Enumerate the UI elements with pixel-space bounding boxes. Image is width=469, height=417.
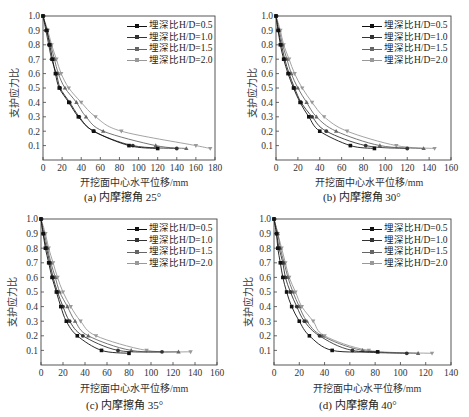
chart-panel-b: 0204060801001201401600.10.20.30.40.50.60… [235, 0, 469, 208]
svg-text:0: 0 [39, 368, 44, 378]
legend-marker-circle-icon [362, 236, 382, 244]
x-axis-label: 开挖面中心水平位移/mm [80, 380, 188, 395]
legend-item: 埋深比H/D=1.0 [362, 235, 448, 247]
svg-text:20: 20 [293, 163, 303, 173]
legend-marker-down-triangle-icon [127, 259, 147, 267]
y-axis-label: 支护应力比 [240, 277, 255, 327]
legend-marker-triangle-icon [362, 45, 382, 53]
svg-text:60: 60 [102, 368, 112, 378]
svg-text:0.3: 0.3 [261, 112, 273, 122]
legend-item: 埋深比H/D=2.0 [127, 55, 213, 67]
legend-item: 埋深比H/D=1.0 [127, 235, 213, 247]
legend: 埋深比H/D=0.5 埋深比H/D=1.0 埋深比H/D=1.5 埋深比H/D=… [127, 20, 213, 66]
svg-text:0.9: 0.9 [259, 229, 271, 239]
svg-text:80: 80 [115, 163, 125, 173]
legend-marker-circle-icon [127, 236, 147, 244]
svg-text:0.7: 0.7 [26, 258, 38, 268]
svg-text:0.1: 0.1 [259, 346, 271, 356]
svg-text:0: 0 [41, 163, 46, 173]
legend-marker-triangle-icon [127, 45, 147, 53]
svg-text:0.5: 0.5 [26, 287, 38, 297]
svg-text:0.1: 0.1 [261, 141, 273, 151]
svg-text:100: 100 [378, 163, 393, 173]
svg-text:0.6: 0.6 [26, 273, 38, 283]
panel-caption: (d) 内摩擦角 40° [319, 396, 397, 412]
legend-item: 埋深比H/D=0.5 [362, 20, 448, 32]
legend-item: 埋深比H/D=2.0 [362, 55, 448, 67]
legend: 埋深比H/D=0.5 埋深比H/D=1.0 埋深比H/D=1.5 埋深比H/D=… [362, 20, 448, 66]
legend-item: 埋深比H/D=1.5 [127, 43, 213, 55]
legend-item: 埋深比H/D=2.0 [362, 258, 448, 270]
svg-text:0.7: 0.7 [259, 258, 271, 268]
chart-panel-d: 0204060801001201400.10.20.30.40.50.60.70… [235, 207, 469, 415]
svg-text:60: 60 [345, 368, 355, 378]
legend-item: 埋深比H/D=0.5 [127, 20, 213, 32]
svg-text:0.8: 0.8 [261, 40, 273, 50]
svg-text:0.8: 0.8 [26, 244, 38, 254]
svg-text:20: 20 [57, 163, 67, 173]
svg-text:0.2: 0.2 [28, 127, 40, 137]
legend-item: 埋深比H/D=2.0 [127, 258, 213, 270]
legend-marker-square-icon [127, 22, 147, 30]
svg-text:1.0: 1.0 [26, 214, 38, 224]
legend-item: 埋深比H/D=1.0 [127, 32, 213, 44]
legend-marker-square-icon [127, 225, 147, 233]
panel-caption: (a) 内摩擦角 25° [84, 188, 161, 204]
svg-text:140: 140 [188, 368, 203, 378]
legend-marker-down-triangle-icon [362, 259, 382, 267]
svg-text:40: 40 [320, 368, 330, 378]
svg-text:140: 140 [170, 163, 185, 173]
svg-text:0.1: 0.1 [28, 141, 40, 151]
svg-text:0.9: 0.9 [26, 229, 38, 239]
legend-item: 埋深比H/D=1.5 [127, 246, 213, 258]
svg-text:120: 120 [419, 368, 434, 378]
svg-text:0.8: 0.8 [28, 40, 40, 50]
svg-text:0.7: 0.7 [28, 55, 40, 65]
svg-text:80: 80 [370, 368, 380, 378]
svg-text:40: 40 [315, 163, 325, 173]
x-axis-label: 开挖面中心水平位移/mm [80, 174, 188, 189]
y-axis-label: 支护应力比 [6, 68, 21, 118]
svg-text:100: 100 [393, 368, 408, 378]
legend-item: 埋深比H/D=1.0 [362, 32, 448, 44]
svg-text:140: 140 [444, 368, 459, 378]
svg-text:0.6: 0.6 [28, 69, 40, 79]
svg-text:140: 140 [422, 163, 437, 173]
svg-text:40: 40 [80, 368, 90, 378]
svg-text:0.3: 0.3 [26, 317, 38, 327]
svg-text:180: 180 [208, 163, 223, 173]
svg-text:0.4: 0.4 [28, 98, 40, 108]
svg-text:0.4: 0.4 [26, 302, 38, 312]
svg-text:0: 0 [274, 163, 279, 173]
svg-text:0.6: 0.6 [259, 273, 271, 283]
x-axis-label: 开挖面中心水平位移/mm [315, 174, 423, 189]
svg-text:0.2: 0.2 [259, 331, 271, 341]
legend-item: 埋深比H/D=1.5 [362, 246, 448, 258]
svg-text:20: 20 [295, 368, 305, 378]
svg-text:120: 120 [166, 368, 181, 378]
legend-marker-circle-icon [127, 33, 147, 41]
svg-text:1.0: 1.0 [28, 11, 40, 21]
chart-panel-c: 0204060801001201401600.10.20.30.40.50.60… [0, 207, 234, 415]
y-axis-label: 支护应力比 [4, 277, 19, 327]
svg-text:0.2: 0.2 [26, 331, 38, 341]
svg-text:80: 80 [359, 163, 369, 173]
legend-item: 埋深比H/D=0.5 [362, 223, 448, 235]
svg-text:0.6: 0.6 [261, 69, 273, 79]
svg-text:0.8: 0.8 [259, 244, 271, 254]
svg-text:120: 120 [151, 163, 166, 173]
svg-text:0.7: 0.7 [261, 55, 273, 65]
svg-text:1.0: 1.0 [259, 214, 271, 224]
svg-text:0.5: 0.5 [259, 287, 271, 297]
legend-item: 埋深比H/D=0.5 [127, 223, 213, 235]
x-axis-label: 开挖面中心水平位移/mm [313, 380, 421, 395]
legend: 埋深比H/D=0.5 埋深比H/D=1.0 埋深比H/D=1.5 埋深比H/D=… [362, 223, 448, 269]
svg-text:60: 60 [96, 163, 106, 173]
svg-text:0.5: 0.5 [261, 83, 273, 93]
chart-panel-a: 0204060801001201401601800.10.20.30.40.50… [0, 0, 234, 208]
svg-text:0.3: 0.3 [259, 317, 271, 327]
legend: 埋深比H/D=0.5 埋深比H/D=1.0 埋深比H/D=1.5 埋深比H/D=… [127, 223, 213, 269]
svg-text:120: 120 [400, 163, 415, 173]
svg-text:80: 80 [124, 368, 134, 378]
svg-text:0.3: 0.3 [28, 112, 40, 122]
